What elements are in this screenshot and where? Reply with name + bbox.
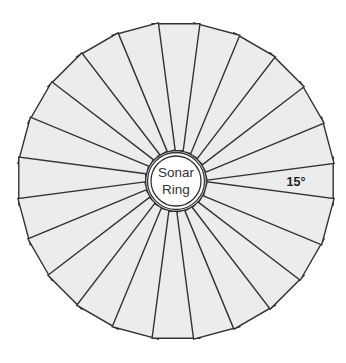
center-inner-ring [151,156,201,206]
center-label-line-2: Ring [162,182,190,197]
sonar-ring-diagram: Sonar Ring 15° [0,0,346,363]
center-label-line-1: Sonar [158,165,195,180]
segment-angle-label: 15° [287,175,306,189]
